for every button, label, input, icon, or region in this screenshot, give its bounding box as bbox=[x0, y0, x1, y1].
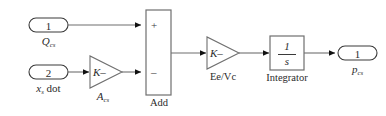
sum-block-shape bbox=[146, 10, 171, 95]
integrator-denominator: s bbox=[285, 55, 289, 67]
gain-acs-body: K– bbox=[93, 67, 106, 78]
sum-sign-minus: – bbox=[151, 67, 157, 78]
gain-acs-label: Acs bbox=[83, 91, 123, 104]
input-port-1-number: 1 bbox=[29, 21, 68, 32]
block-diagram: 1 Qcs 2 xs dot K– Acs + – Add K– Ee/Vc 1… bbox=[0, 0, 386, 116]
gain-ee-vc-body: K– bbox=[210, 48, 223, 59]
input-port-2-label: xs dot bbox=[19, 83, 78, 96]
sum-block-label: Add bbox=[134, 98, 184, 109]
integrator-transfer-function: 1 s bbox=[278, 41, 296, 67]
integrator-numerator: 1 bbox=[284, 40, 290, 52]
output-port-1-label: pcs bbox=[338, 64, 377, 77]
gain-ee-vc-label: Ee/Vc bbox=[199, 72, 247, 83]
diagram-canvas bbox=[0, 0, 386, 116]
output-port-1-number: 1 bbox=[338, 49, 377, 60]
integrator-label: Integrator bbox=[257, 73, 317, 84]
input-port-2-number: 2 bbox=[29, 68, 68, 79]
input-port-1-label: Qcs bbox=[29, 36, 68, 49]
sum-sign-plus: + bbox=[151, 20, 157, 31]
